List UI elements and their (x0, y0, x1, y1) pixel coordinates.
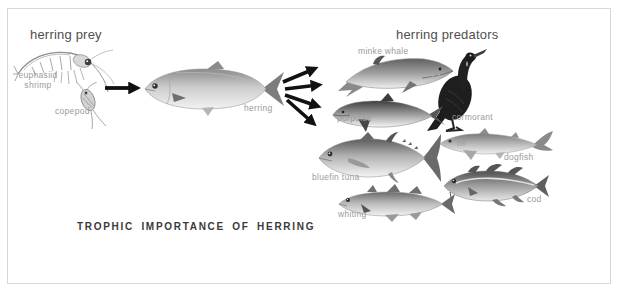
minke-whale-label: minke whale (358, 46, 409, 56)
dogfish-illustration (438, 127, 556, 165)
euphasiid-shrimp-label: euphasiid shrimp (12, 70, 64, 90)
trophic-importance-diagram: herring prey herring predators euphasiid… (0, 0, 622, 296)
porpoise-label: porpoise (337, 113, 372, 123)
predator-section-header: herring predators (396, 27, 498, 42)
cod-label: cod (527, 194, 542, 204)
dogfish-label: dogfish (504, 152, 534, 162)
cormorant-label: cormorant (452, 112, 493, 122)
bluefin-tuna-label: bluefin tuna (312, 172, 360, 182)
diagram-title: TROPHIC IMPORTANCE OF HERRING (77, 221, 315, 232)
prey-section-header: herring prey (30, 27, 102, 42)
herring-to-predators-arrows-icon (279, 58, 327, 134)
herring-label: herring (244, 103, 273, 113)
whiting-label: whiting (338, 209, 367, 219)
copepod-label: copepod (55, 106, 90, 116)
